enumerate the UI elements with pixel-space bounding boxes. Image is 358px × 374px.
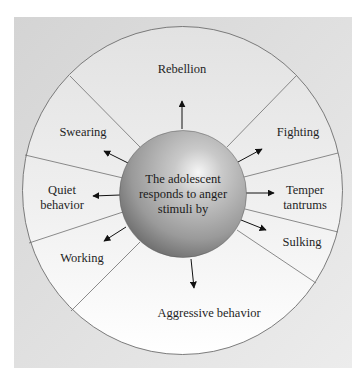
label-text: Aggressive behavior <box>157 306 260 321</box>
label-swearing: Swearing <box>59 125 106 140</box>
center-label-line: stimuli by <box>128 202 238 217</box>
label-sulking: Sulking <box>283 235 322 250</box>
label-temper-tantrums: Temper tantrums <box>283 183 327 213</box>
label-text: Swearing <box>59 125 106 140</box>
label-text: behavior <box>40 198 84 213</box>
label-working: Working <box>60 251 103 266</box>
label-aggressive-behavior: Aggressive behavior <box>157 306 260 321</box>
center-label-line: The adolescent <box>128 172 238 187</box>
label-text: Working <box>60 251 103 266</box>
label-text: Rebellion <box>158 62 207 77</box>
anger-response-diagram: The adolescent responds to anger stimuli… <box>0 0 358 374</box>
label-text: Quiet <box>40 183 84 198</box>
label-text: Temper <box>283 183 327 198</box>
center-label: The adolescent responds to anger stimuli… <box>128 172 238 217</box>
center-label-line: responds to anger <box>128 187 238 202</box>
label-quiet-behavior: Quiet behavior <box>40 183 84 213</box>
label-fighting: Fighting <box>277 125 319 140</box>
label-text: Sulking <box>283 235 322 250</box>
label-rebellion: Rebellion <box>158 62 207 77</box>
label-text: Fighting <box>277 125 319 140</box>
label-text: tantrums <box>283 198 327 213</box>
